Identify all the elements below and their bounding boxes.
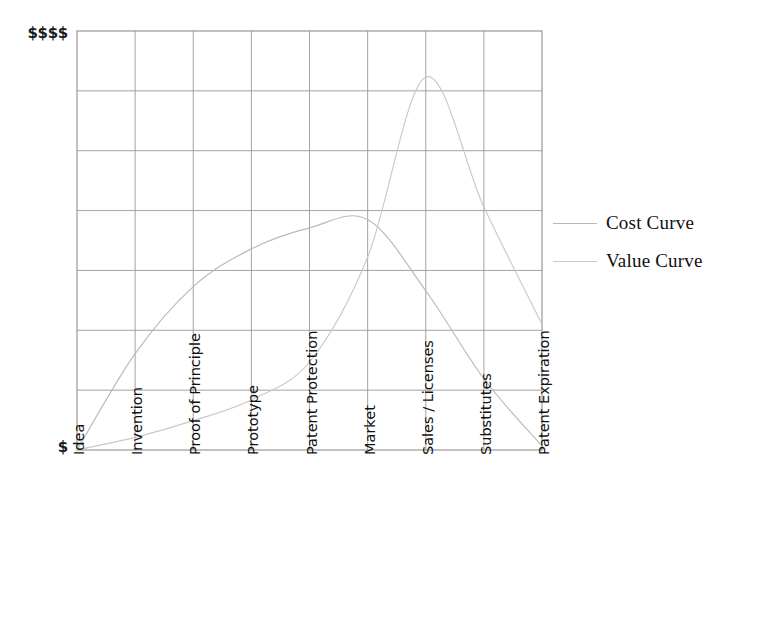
legend-item[interactable]: Cost Curve [553, 204, 753, 242]
legend-item[interactable]: Value Curve [553, 242, 753, 280]
x-axis-label-patent-protection: Patent Protection [304, 331, 320, 455]
x-axis-label-substitutes: Substitutes [478, 373, 494, 455]
x-axis-label-patent-expiration: Patent Expiration [536, 330, 552, 455]
legend: Cost CurveValue Curve [553, 204, 753, 280]
x-axis-label-invention: Invention [129, 387, 145, 455]
chart-container: $$$$ $ IdeaInventionProof of PrinciplePr… [0, 0, 760, 637]
legend-item-label: Cost Curve [606, 212, 694, 234]
plot-area [0, 0, 760, 637]
x-axis-label-prototype: Prototype [245, 385, 261, 455]
legend-line-icon [553, 223, 597, 224]
legend-line-icon [553, 261, 597, 262]
x-axis-label-sales-licenses: Sales / Licenses [420, 340, 436, 455]
x-axis-label-idea: Idea [71, 424, 87, 455]
legend-item-label: Value Curve [606, 250, 703, 272]
x-axis-label-market: Market [362, 405, 378, 455]
x-axis-label-proof-of-principle: Proof of Principle [187, 333, 203, 455]
